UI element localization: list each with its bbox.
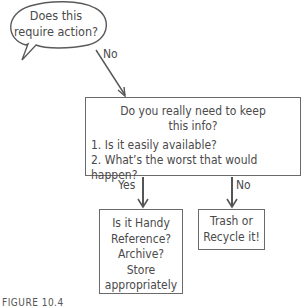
edge-label-yes: Yes (118, 178, 135, 192)
main-decision-box: Do you really need to keep this info? 1.… (85, 97, 301, 176)
main-item-1: 1. Is it easily available? (91, 138, 295, 153)
edge-label-no: No (236, 178, 251, 192)
no-line-2: Recycle it! (199, 230, 264, 246)
no-outcome-box: Trash or Recycle it! (198, 209, 265, 250)
main-question-line1: Do you really need to keep (91, 104, 295, 119)
edge-label-no-start: No (103, 47, 118, 61)
start-text-line2: require action? (12, 24, 100, 40)
yes-line-2: Reference? (100, 232, 182, 248)
no-line-1: Trash or (199, 214, 264, 230)
main-question-line2: this info? (91, 119, 295, 134)
yes-line-1: Is it Handy (100, 216, 182, 232)
yes-outcome-box: Is it Handy Reference? Archive? Store ap… (99, 209, 183, 294)
start-bubble: Does this require action? (12, 8, 100, 40)
figure-caption: FIGURE 10.4 (2, 297, 64, 308)
yes-line-5: appropriately (100, 278, 182, 294)
yes-line-4: Store (100, 263, 182, 279)
yes-line-3: Archive? (100, 247, 182, 263)
start-text-line1: Does this (12, 8, 100, 24)
